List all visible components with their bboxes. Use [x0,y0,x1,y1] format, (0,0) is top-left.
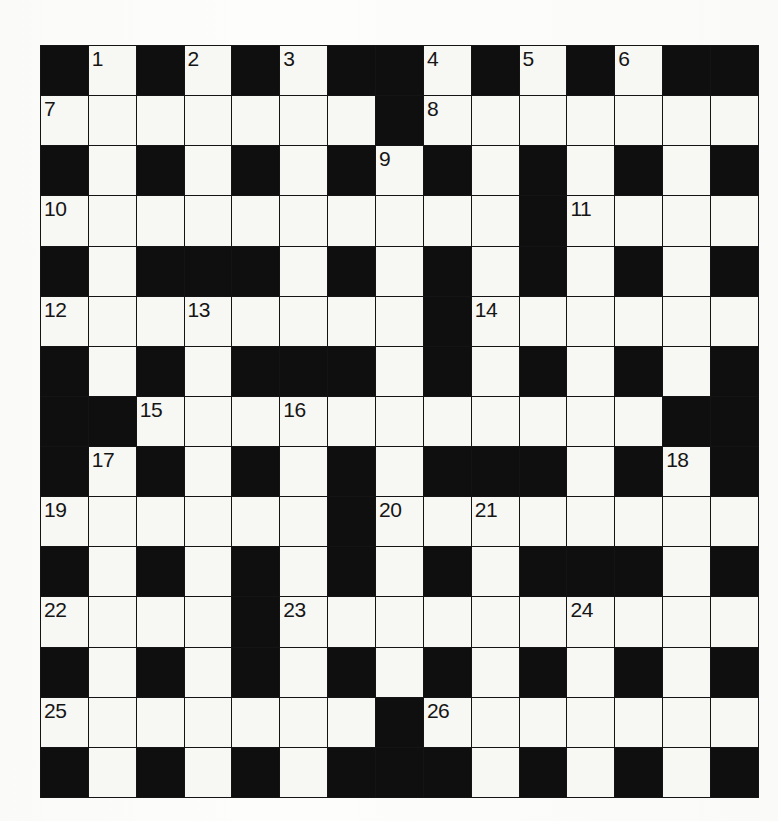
crossword-letter-cell[interactable] [663,96,711,146]
crossword-letter-cell[interactable]: 3 [280,46,328,96]
crossword-letter-cell[interactable] [471,146,519,196]
crossword-letter-cell[interactable] [184,547,232,597]
crossword-letter-cell[interactable] [280,196,328,246]
crossword-letter-cell[interactable]: 11 [567,196,615,246]
crossword-letter-cell[interactable] [663,747,711,797]
crossword-letter-cell[interactable] [280,96,328,146]
crossword-letter-cell[interactable]: 24 [567,597,615,647]
crossword-letter-cell[interactable] [615,396,663,446]
crossword-letter-cell[interactable]: 25 [41,697,89,747]
crossword-letter-cell[interactable]: 10 [41,196,89,246]
crossword-letter-cell[interactable] [280,747,328,797]
crossword-letter-cell[interactable] [328,96,376,146]
crossword-letter-cell[interactable] [567,296,615,346]
crossword-letter-cell[interactable]: 16 [280,396,328,446]
crossword-letter-cell[interactable] [567,497,615,547]
crossword-letter-cell[interactable] [328,396,376,446]
crossword-letter-cell[interactable] [663,346,711,396]
crossword-letter-cell[interactable] [136,597,184,647]
crossword-letter-cell[interactable] [663,697,711,747]
crossword-letter-cell[interactable] [376,346,424,396]
crossword-letter-cell[interactable] [615,697,663,747]
crossword-letter-cell[interactable] [423,396,471,446]
crossword-letter-cell[interactable] [519,697,567,747]
crossword-letter-cell[interactable] [376,647,424,697]
crossword-letter-cell[interactable] [567,697,615,747]
crossword-letter-cell[interactable] [88,296,136,346]
crossword-letter-cell[interactable] [711,697,759,747]
crossword-letter-cell[interactable] [376,196,424,246]
crossword-letter-cell[interactable] [519,597,567,647]
crossword-letter-cell[interactable] [376,246,424,296]
crossword-letter-cell[interactable]: 18 [663,447,711,497]
crossword-letter-cell[interactable] [376,547,424,597]
crossword-letter-cell[interactable]: 9 [376,146,424,196]
crossword-letter-cell[interactable]: 1 [88,46,136,96]
crossword-letter-cell[interactable]: 21 [471,497,519,547]
crossword-letter-cell[interactable] [88,346,136,396]
crossword-letter-cell[interactable]: 8 [423,96,471,146]
crossword-letter-cell[interactable]: 4 [423,46,471,96]
crossword-letter-cell[interactable] [376,296,424,346]
crossword-letter-cell[interactable] [615,196,663,246]
crossword-letter-cell[interactable] [88,597,136,647]
crossword-letter-cell[interactable] [471,346,519,396]
crossword-grid[interactable]: 1234567891011121314151617181920212223242… [40,45,759,798]
crossword-letter-cell[interactable]: 13 [184,296,232,346]
crossword-letter-cell[interactable] [567,246,615,296]
crossword-letter-cell[interactable] [567,146,615,196]
crossword-letter-cell[interactable]: 19 [41,497,89,547]
crossword-letter-cell[interactable] [615,296,663,346]
crossword-letter-cell[interactable] [567,96,615,146]
crossword-letter-cell[interactable] [184,447,232,497]
crossword-letter-cell[interactable] [663,547,711,597]
crossword-letter-cell[interactable] [663,146,711,196]
crossword-letter-cell[interactable] [184,396,232,446]
crossword-letter-cell[interactable] [711,296,759,346]
crossword-letter-cell[interactable] [280,497,328,547]
crossword-letter-cell[interactable] [711,196,759,246]
crossword-letter-cell[interactable] [711,597,759,647]
crossword-letter-cell[interactable] [615,597,663,647]
crossword-letter-cell[interactable] [663,647,711,697]
crossword-letter-cell[interactable] [232,497,280,547]
crossword-letter-cell[interactable]: 6 [615,46,663,96]
crossword-letter-cell[interactable] [88,246,136,296]
crossword-letter-cell[interactable] [711,96,759,146]
crossword-letter-cell[interactable] [376,597,424,647]
crossword-letter-cell[interactable] [88,196,136,246]
crossword-letter-cell[interactable] [663,296,711,346]
crossword-letter-cell[interactable]: 5 [519,46,567,96]
crossword-letter-cell[interactable]: 2 [184,46,232,96]
crossword-letter-cell[interactable] [471,96,519,146]
crossword-letter-cell[interactable] [184,497,232,547]
crossword-letter-cell[interactable] [280,296,328,346]
crossword-letter-cell[interactable] [88,497,136,547]
crossword-letter-cell[interactable] [567,447,615,497]
crossword-letter-cell[interactable] [615,96,663,146]
crossword-letter-cell[interactable] [136,497,184,547]
crossword-letter-cell[interactable] [184,196,232,246]
crossword-letter-cell[interactable] [280,246,328,296]
crossword-letter-cell[interactable] [567,747,615,797]
crossword-letter-cell[interactable] [136,697,184,747]
crossword-letter-cell[interactable] [471,547,519,597]
crossword-grid-body[interactable]: 1234567891011121314151617181920212223242… [41,46,759,798]
crossword-letter-cell[interactable] [280,146,328,196]
crossword-letter-cell[interactable] [663,246,711,296]
crossword-letter-cell[interactable] [423,196,471,246]
crossword-letter-cell[interactable] [471,246,519,296]
crossword-letter-cell[interactable] [184,697,232,747]
crossword-letter-cell[interactable] [376,447,424,497]
crossword-letter-cell[interactable] [423,497,471,547]
crossword-letter-cell[interactable] [567,346,615,396]
crossword-letter-cell[interactable] [280,447,328,497]
crossword-letter-cell[interactable] [232,296,280,346]
crossword-letter-cell[interactable] [88,146,136,196]
crossword-letter-cell[interactable] [423,597,471,647]
crossword-letter-cell[interactable] [663,597,711,647]
crossword-letter-cell[interactable] [280,647,328,697]
crossword-letter-cell[interactable] [471,747,519,797]
crossword-letter-cell[interactable] [280,697,328,747]
crossword-letter-cell[interactable]: 17 [88,447,136,497]
